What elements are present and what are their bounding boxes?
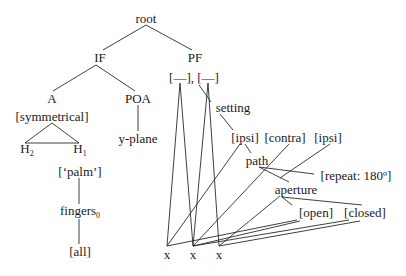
node-label: y-plane bbox=[119, 131, 158, 146]
node-closed: [closed] bbox=[344, 206, 386, 219]
edge-open-x2 bbox=[193, 221, 300, 246]
node-label: [ipsi] bbox=[314, 130, 341, 145]
timing-slot-x3: x bbox=[216, 248, 223, 261]
node-h1: H1 bbox=[73, 142, 86, 158]
edge-closed-x3 bbox=[219, 221, 360, 246]
edge-timing_slots-setting bbox=[199, 85, 211, 102]
node-label: setting bbox=[216, 100, 251, 115]
node-label: [repeat: 180º] bbox=[321, 168, 392, 183]
edge-open-x1 bbox=[167, 220, 297, 246]
node-label: [ipsi] bbox=[231, 130, 258, 145]
node-pf: PF bbox=[188, 51, 202, 64]
node-open: [open] bbox=[299, 206, 333, 219]
timing-slot-x1: x bbox=[164, 248, 171, 261]
node-subscript: 0 bbox=[96, 211, 100, 220]
node-a: A bbox=[47, 92, 56, 105]
tree-edges bbox=[0, 0, 406, 276]
node-label: path bbox=[246, 153, 268, 168]
node-label: POA bbox=[125, 91, 151, 106]
edge-ipsi_1-x1 bbox=[167, 144, 240, 246]
edge-symmetrical-h1 bbox=[52, 123, 79, 143]
node-label: H bbox=[20, 141, 29, 156]
node-palm: [‘palm’] bbox=[58, 165, 101, 178]
node-label: x bbox=[164, 247, 171, 262]
timing-slot-x2: x bbox=[190, 248, 197, 261]
node-if: IF bbox=[94, 51, 106, 64]
edge-closed-x2 bbox=[193, 220, 349, 246]
node-label: [contra] bbox=[264, 130, 305, 145]
node-label: [all] bbox=[69, 244, 91, 259]
node-subscript: 1 bbox=[83, 149, 87, 158]
edge-path-repeat bbox=[259, 167, 314, 174]
edge-if-poa bbox=[96, 65, 135, 91]
node-label: A bbox=[47, 91, 56, 106]
node-label: x bbox=[216, 247, 223, 262]
node-label: [symmetrical] bbox=[16, 109, 89, 124]
edge-slot1-x1 bbox=[167, 83, 180, 246]
node-root: root bbox=[136, 12, 157, 25]
node-label: [—], [—] bbox=[169, 70, 219, 85]
edge-slot2-x2 bbox=[193, 83, 208, 246]
node-label: [open] bbox=[299, 205, 333, 220]
edge-root-pf bbox=[146, 25, 192, 50]
node-ipsi-1: [ipsi] bbox=[231, 131, 258, 144]
node-label: fingers bbox=[60, 203, 96, 218]
node-contra: [contra] bbox=[264, 131, 305, 144]
edge-setting-ipsi_1 bbox=[220, 114, 233, 130]
node-label: root bbox=[136, 11, 157, 26]
edge-symmetrical-h2 bbox=[25, 123, 52, 143]
node-label: H bbox=[73, 141, 82, 156]
node-label: x bbox=[190, 247, 197, 262]
node-y-plane: y-plane bbox=[119, 132, 158, 145]
node-label: PF bbox=[188, 50, 202, 65]
node-poa: POA bbox=[125, 92, 151, 105]
edge-root-if bbox=[103, 25, 146, 50]
node-path: path bbox=[246, 154, 268, 167]
node-label: [closed] bbox=[344, 205, 386, 220]
node-subscript: 2 bbox=[30, 149, 34, 158]
node-label: IF bbox=[94, 50, 106, 65]
node-label: aperture bbox=[275, 182, 318, 197]
feature-tree-diagram: root IF PF [—], [—] A POA [symmetrical] … bbox=[0, 0, 406, 276]
node-fingers: fingers0 bbox=[60, 204, 100, 220]
node-aperture: aperture bbox=[275, 183, 318, 196]
node-timing-slots: [—], [—] bbox=[169, 71, 219, 84]
node-setting: setting bbox=[216, 101, 251, 114]
node-label: [‘palm’] bbox=[58, 164, 101, 179]
edge-aperture-x3 bbox=[219, 196, 280, 246]
edge-if-a bbox=[53, 65, 96, 91]
edge-slot1-x2 bbox=[180, 83, 193, 246]
node-repeat: [repeat: 180º] bbox=[321, 169, 392, 182]
node-h2: H2 bbox=[20, 142, 33, 158]
node-all: [all] bbox=[69, 245, 91, 258]
node-ipsi-2: [ipsi] bbox=[314, 131, 341, 144]
node-symmetrical: [symmetrical] bbox=[16, 110, 89, 123]
